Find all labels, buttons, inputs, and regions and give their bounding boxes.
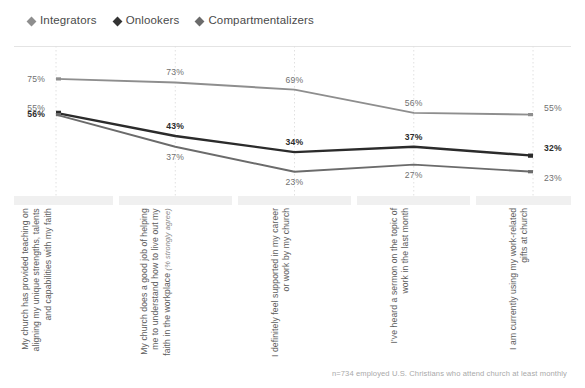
data-label: 27% <box>405 170 423 180</box>
category-strips <box>14 196 571 205</box>
category-strip <box>357 196 470 205</box>
legend-item-integrators[interactable]: Integrators <box>28 15 97 27</box>
diamond-marker-icon <box>195 16 205 26</box>
category-strip <box>476 196 571 205</box>
chart-container: Integrators Onlookers Compartmentalizers… <box>0 0 585 388</box>
series-endcaps <box>56 79 533 172</box>
plot-area: 75%73%69%56%55%56%43%34%37%32%55%37%23%2… <box>14 46 571 201</box>
data-label: 75% <box>27 74 45 84</box>
data-label: 37% <box>405 132 423 142</box>
x-axis-label: I've heard a sermon on the topic of work… <box>389 208 412 363</box>
category-strip <box>238 196 351 205</box>
x-axis-label: My church has provided teaching on align… <box>20 208 54 363</box>
data-label: 55% <box>27 103 45 113</box>
chart-footnote: n=734 employed U.S. Christians who atten… <box>332 369 567 378</box>
data-label: 34% <box>286 137 304 147</box>
chart-legend: Integrators Onlookers Compartmentalizers <box>28 13 314 29</box>
legend-item-onlookers[interactable]: Onlookers <box>114 15 180 27</box>
x-axis-label-note: (% strongly agree) <box>163 208 172 270</box>
data-label: 55% <box>544 103 562 113</box>
category-strip <box>119 196 232 205</box>
legend-item-compartmentalizers[interactable]: Compartmentalizers <box>196 15 314 27</box>
diamond-marker-icon <box>27 16 37 26</box>
x-axis-label: My church does a good job of helping me … <box>139 208 173 363</box>
data-label: 23% <box>544 173 562 183</box>
legend-label: Onlookers <box>126 15 180 27</box>
data-label: 56% <box>405 98 423 108</box>
data-label: 23% <box>286 177 304 187</box>
data-label: 69% <box>286 75 304 85</box>
data-label: 37% <box>166 152 184 162</box>
category-strip <box>14 196 113 205</box>
legend-label: Integrators <box>40 15 97 27</box>
diamond-marker-icon <box>112 16 122 26</box>
x-axis-label: I am currently using my work-related gif… <box>508 208 531 363</box>
data-label: 32% <box>544 143 562 153</box>
line-chart-svg: 75%73%69%56%55%56%43%34%37%32%55%37%23%2… <box>14 46 571 201</box>
series-lines <box>56 79 533 172</box>
data-label: 73% <box>166 67 184 77</box>
x-axis-labels: My church has provided teaching on align… <box>14 205 571 365</box>
data-label: 43% <box>166 121 184 131</box>
x-axis-label: I definitely feel supported in my career… <box>270 208 293 363</box>
legend-label: Compartmentalizers <box>208 15 314 27</box>
